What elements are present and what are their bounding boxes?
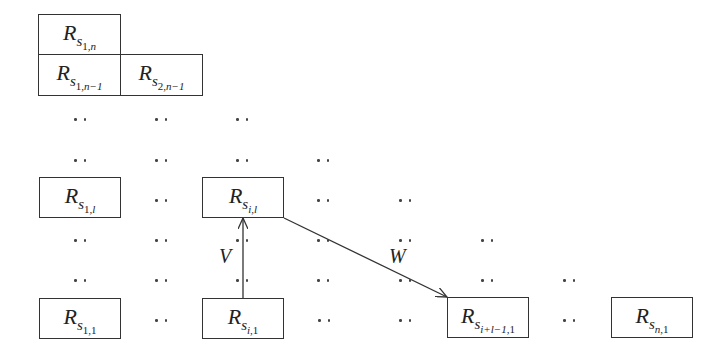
ellipsis-dots [563,319,575,323]
ellipsis-dots [155,319,167,323]
ellipsis-dots [155,159,167,163]
box-r-s1l: Rs1,l [39,177,121,218]
box-r-sn1: Rsn,1 [611,297,693,338]
box-r-s2n-1: Rs2,n−1 [120,54,203,96]
ellipsis-dots [399,199,411,203]
ellipsis-dots [236,279,248,283]
box-label: Rs1,n−1 [57,62,103,84]
edge-label-v: V [219,246,231,266]
ellipsis-dots [399,319,411,323]
ellipsis-dots [236,118,248,122]
box-label: Rs1,n [63,22,96,44]
box-r-si1: Rsi,1 [202,298,284,339]
lattice-diagram: Rs1,nRs1,n−1Rs2,n−1Rs1,lRsi,lRs1,1Rsi,1R… [0,0,728,359]
ellipsis-dots [399,279,411,283]
box-r-s11: Rs1,1 [39,298,121,339]
ellipsis-dots [74,279,86,283]
ellipsis-dots [74,159,86,163]
box-label: Rsn,1 [635,305,668,327]
ellipsis-dots [155,239,167,243]
ellipsis-dots [481,239,493,243]
ellipsis-dots [155,118,167,122]
ellipsis-dots [563,279,575,283]
ellipsis-dots [236,159,248,163]
ellipsis-dots [399,239,411,243]
box-label: Rs1,1 [63,306,96,328]
edge-w-arrow [284,218,447,297]
box-r-sil: Rsi,l [202,177,284,218]
box-label: Rsi,1 [228,306,259,328]
ellipsis-dots [481,279,493,283]
ellipsis-dots [317,199,329,203]
ellipsis-dots [317,239,329,243]
edge-label-w: W [389,246,406,266]
ellipsis-dots [317,159,329,163]
box-label: Rs1,l [65,185,96,207]
ellipsis-dots [236,239,248,243]
ellipsis-dots [74,239,86,243]
ellipsis-dots [155,199,167,203]
box-label: Rsi+l−1,1 [461,305,515,327]
box-r-s1n-1: Rs1,n−1 [38,54,121,96]
box-r-s1n: Rs1,n [38,14,121,55]
ellipsis-dots [155,279,167,283]
box-label: Rs2,n−1 [139,62,185,84]
ellipsis-dots [318,319,330,323]
box-r-si+l-1-1: Rsi+l−1,1 [447,297,529,338]
box-label: Rsi,l [229,185,257,207]
ellipsis-dots [74,118,86,122]
ellipsis-dots [317,279,329,283]
